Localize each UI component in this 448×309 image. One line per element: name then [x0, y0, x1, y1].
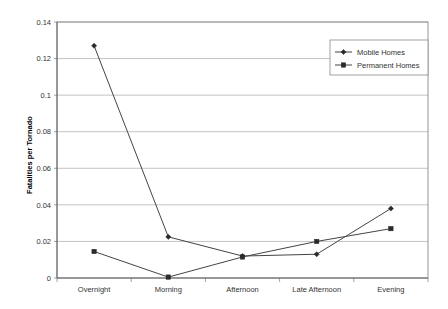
- legend-marker-1: [341, 63, 345, 67]
- y-tick-label: 0: [47, 274, 51, 283]
- legend-label-1: Permanent Homes: [357, 61, 420, 70]
- data-point-permanent-homes: [389, 226, 393, 230]
- x-category-label: Late Afternoon: [292, 285, 341, 294]
- series-line-mobile-homes: [94, 46, 391, 256]
- data-point-mobile-homes: [92, 43, 97, 48]
- x-category-label: Afternoon: [226, 285, 259, 294]
- fatalities-per-tornado-line-chart: 00.020.040.060.080.10.120.14 OvernightMo…: [0, 0, 448, 309]
- x-category-label: Morning: [155, 285, 182, 294]
- y-axis-title: Fatalities per Tornado: [25, 116, 34, 194]
- y-tick-label: 0.04: [36, 201, 51, 210]
- data-point-permanent-homes: [240, 255, 244, 259]
- data-point-permanent-homes: [315, 239, 319, 243]
- data-point-permanent-homes: [92, 249, 96, 253]
- y-tick-label: 0.08: [36, 127, 51, 136]
- data-point-mobile-homes: [166, 234, 171, 239]
- chart-legend: Mobile HomesPermanent Homes: [330, 40, 428, 75]
- x-axis-tick-marks: [57, 278, 428, 282]
- data-point-mobile-homes: [314, 252, 319, 257]
- y-tick-label: 0.12: [36, 54, 51, 63]
- series-line-permanent-homes: [94, 229, 391, 277]
- legend-box: [330, 40, 428, 75]
- y-tick-label: 0.14: [36, 18, 51, 27]
- x-category-label: Overnight: [78, 285, 111, 294]
- data-series-group: [92, 43, 394, 279]
- y-tick-label: 0.02: [36, 237, 51, 246]
- data-point-mobile-homes: [388, 206, 393, 211]
- legend-label-0: Mobile Homes: [357, 48, 405, 57]
- data-point-permanent-homes: [166, 275, 170, 279]
- y-tick-label: 0.06: [36, 164, 51, 173]
- x-category-label: Evening: [377, 285, 404, 294]
- y-tick-label: 0.1: [41, 91, 51, 100]
- y-axis-tick-labels: 00.020.040.060.080.10.120.14: [36, 18, 57, 283]
- x-axis-category-labels: OvernightMorningAfternoonLate AfternoonE…: [78, 285, 405, 294]
